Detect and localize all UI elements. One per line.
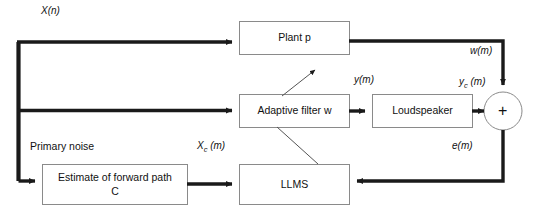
- block-estimate-rect: [43, 165, 188, 205]
- signal-label-x-n: X(n): [41, 5, 60, 16]
- signal-label-y-m: y(m): [354, 74, 374, 85]
- annotation-primary-noise: Primary noise: [30, 140, 94, 152]
- summing-junction-operator: +: [498, 103, 507, 119]
- block-plant-rect: [240, 22, 350, 55]
- block-llms-rect: [240, 165, 350, 205]
- signal-path-error-feedback-to-llms: [357, 130, 503, 181]
- block-loudspeaker-rect: [373, 95, 473, 128]
- diagram-canvas: [0, 0, 547, 213]
- weight-update-arrow-upper: [282, 70, 315, 96]
- block-diagram: Plant p Adaptive filter w Loudspeaker Es…: [0, 0, 547, 213]
- signal-label-yc-m: yc (m): [459, 76, 486, 90]
- block-adaptive-filter-rect: [240, 95, 350, 128]
- signal-label-w-m: w(m): [470, 45, 492, 56]
- coefficient-link-lower: [277, 127, 318, 164]
- signal-label-xc-m: Xc (m): [197, 140, 225, 154]
- signal-label-e-m: e(m): [452, 140, 473, 151]
